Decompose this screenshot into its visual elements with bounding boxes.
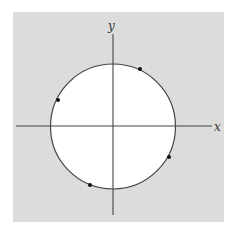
point-1 <box>138 67 142 71</box>
point-3 <box>167 155 171 159</box>
y-axis-label: y <box>107 19 115 33</box>
unit-circle-figure: x y <box>0 0 231 234</box>
x-axis-label: x <box>214 120 221 134</box>
point-4 <box>88 183 92 187</box>
point-2 <box>56 98 60 102</box>
